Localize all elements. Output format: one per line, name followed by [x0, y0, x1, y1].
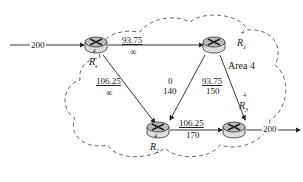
- link-r1-r3-bottom: 150: [206, 87, 220, 96]
- router-r3-icon: [223, 122, 245, 138]
- router-rs-icon: [85, 37, 107, 53]
- router-r3-label: R34: [239, 100, 251, 113]
- link-source-label: 200: [30, 41, 46, 50]
- link-r1-r3-top: 93.75: [202, 77, 222, 86]
- router-r2-icon: [147, 122, 169, 138]
- router-rs-label: Rs4: [89, 56, 100, 69]
- link-sink-label: 200: [262, 125, 278, 134]
- link-r1-r2-bottom: 140: [163, 87, 177, 96]
- router-r1-icon: [203, 37, 225, 53]
- router-r1-label: R14: [237, 37, 249, 50]
- link-rs-r1-top: 93.75: [122, 36, 142, 45]
- link-r2-r3-bottom: 170: [186, 131, 200, 140]
- area-label: Area 4: [228, 60, 255, 71]
- router-r2-label: R24: [150, 141, 162, 154]
- link-rs-r2-bottom: ∞: [106, 89, 112, 98]
- link-rs-r2-top: 106.25: [96, 77, 121, 86]
- link-r2-r3-top: 106.25: [179, 119, 204, 128]
- link-r1-r2-top: 0: [168, 77, 173, 86]
- link-rs-r1-bottom: ∞: [130, 48, 136, 57]
- network-diagram: [0, 0, 303, 182]
